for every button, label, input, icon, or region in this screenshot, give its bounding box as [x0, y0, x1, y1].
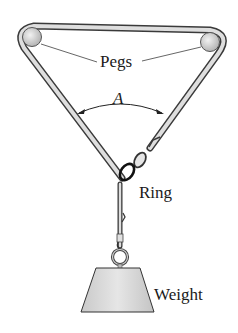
pegs-ring-weight-diagram: Pegs A Ring Weight: [0, 0, 238, 333]
right-peg: [201, 33, 220, 52]
pegs-label: Pegs: [100, 52, 132, 71]
ring-label: Ring: [139, 183, 173, 202]
weight: [81, 268, 154, 312]
weight-eye-highlight: [113, 250, 128, 265]
hanging-rope: [117, 184, 125, 250]
pegs-leader-left: [41, 44, 97, 62]
angle-label: A: [112, 89, 124, 108]
left-peg: [23, 28, 42, 47]
weight-label: Weight: [154, 285, 203, 304]
pegs-leader-right: [142, 47, 201, 61]
